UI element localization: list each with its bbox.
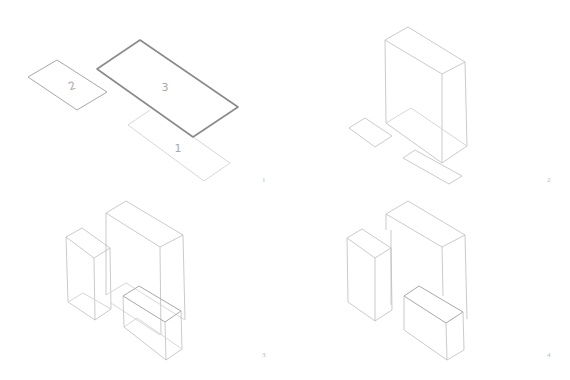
box-3 [106, 201, 185, 335]
wireframe-drawing-step-3 [0, 190, 285, 380]
box-2 [347, 229, 392, 321]
sketch-canvas: 2 3 1 1 2 [0, 0, 570, 380]
panel-step-1: 2 3 1 1 [0, 0, 285, 190]
box-3 [386, 201, 467, 319]
box-3 [385, 27, 467, 163]
footprint-2 [349, 118, 392, 147]
step-number: 2 [547, 177, 551, 184]
box-2 [66, 228, 111, 320]
step-number: 3 [262, 352, 266, 359]
step-number: 4 [547, 352, 551, 359]
shape-label-1: 1 [175, 143, 182, 154]
box-1 [404, 286, 464, 360]
box-1 [123, 286, 182, 360]
panel-step-2: 2 [285, 0, 570, 190]
solid-drawing-step-4 [285, 190, 570, 380]
footprints-drawing [0, 0, 285, 190]
panel-step-4: 4 [285, 190, 570, 380]
step-number: 1 [262, 177, 266, 184]
panel-step-3: 3 [0, 190, 285, 380]
shape-label-3: 3 [162, 82, 169, 93]
extrusion-drawing-step-2 [285, 0, 570, 190]
